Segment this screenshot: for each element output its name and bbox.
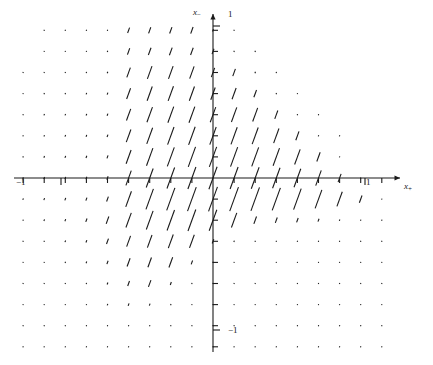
field-segment — [148, 48, 151, 55]
x-axis-label: x+ — [404, 182, 412, 193]
field-segment — [65, 198, 66, 200]
field-segment — [359, 195, 362, 202]
field-segment — [254, 217, 257, 224]
field-segment — [148, 258, 152, 268]
axes-layer — [14, 14, 400, 352]
field-segment — [128, 28, 130, 33]
field-segment — [126, 191, 132, 207]
field-segment — [337, 192, 342, 207]
field-segment — [107, 261, 108, 264]
field-segment — [232, 88, 236, 99]
field-segment — [107, 155, 108, 158]
field-segment — [273, 148, 279, 166]
field-segment — [128, 281, 130, 286]
field-segment — [127, 236, 131, 247]
field-segment — [126, 129, 131, 142]
field-segment — [147, 148, 153, 166]
field-segment — [253, 108, 258, 122]
field-segment — [191, 48, 194, 55]
field-segment — [147, 87, 152, 101]
field-segment — [233, 69, 236, 76]
field-segment — [254, 90, 257, 97]
field-segment — [44, 135, 45, 136]
field-segment — [65, 156, 66, 158]
field-segment — [234, 241, 235, 242]
y-axis-label-subscript: − — [197, 11, 201, 19]
field-segment — [127, 88, 131, 99]
field-segment — [86, 156, 87, 158]
field-segment — [86, 262, 87, 264]
field-segment — [128, 303, 129, 305]
field-segment — [107, 283, 108, 285]
field-segment — [149, 304, 150, 306]
field-segment — [86, 240, 87, 242]
field-segment — [107, 197, 109, 202]
field-segment — [167, 188, 175, 210]
field-segment — [147, 66, 152, 79]
field-segment — [272, 188, 280, 210]
field-segment — [168, 66, 173, 79]
field-segment — [251, 187, 260, 210]
field-segment — [107, 304, 108, 305]
field-segment — [107, 239, 109, 244]
field-segment — [339, 219, 340, 220]
field-segment — [188, 147, 195, 167]
field-segment — [188, 209, 196, 231]
field-segment — [255, 72, 256, 73]
field-segment — [126, 150, 131, 164]
field-segment — [296, 131, 299, 140]
field-segment — [230, 187, 239, 211]
field-segment — [189, 127, 196, 145]
vector-field-layer — [23, 27, 382, 347]
field-segment — [169, 48, 172, 56]
field-segment — [275, 111, 278, 119]
field-segment — [318, 219, 319, 222]
x-axis-label-subscript: + — [408, 185, 412, 193]
field-segment — [168, 107, 174, 123]
field-segment — [188, 187, 197, 211]
field-segment — [274, 128, 279, 143]
field-segment — [86, 93, 87, 94]
field-segment — [275, 218, 277, 223]
field-segment — [65, 114, 66, 115]
field-segment — [167, 210, 174, 231]
field-segment — [295, 149, 301, 164]
field-segment — [191, 27, 193, 34]
field-segment — [65, 219, 66, 221]
field-segment — [65, 240, 66, 242]
field-segment — [146, 211, 153, 230]
field-segment — [86, 198, 87, 201]
vector-field-figure: x+ x− −1 1 1 −1 — [0, 0, 433, 365]
field-segment — [126, 109, 130, 121]
field-segment — [252, 127, 258, 144]
field-segment — [65, 135, 66, 137]
x-axis-tick-label-positive-one: 1 — [366, 178, 371, 187]
field-segment — [86, 114, 87, 116]
field-segment — [148, 280, 150, 287]
field-segment — [168, 234, 173, 248]
field-segment — [167, 147, 174, 166]
field-segment — [126, 213, 131, 228]
field-segment — [44, 219, 45, 221]
field-segment — [189, 107, 195, 123]
field-segment — [107, 114, 108, 116]
field-segment — [147, 128, 153, 144]
field-segment — [252, 147, 259, 166]
field-segment — [297, 218, 299, 222]
field-segment — [147, 235, 152, 248]
field-segment — [190, 235, 195, 248]
field-segment — [146, 189, 153, 210]
field-segment — [231, 127, 237, 144]
y-axis-tick-label-positive-one: 1 — [228, 10, 233, 19]
y-axis-arrowhead — [210, 14, 215, 20]
field-segment — [107, 72, 108, 73]
field-segment — [107, 93, 108, 95]
field-segment — [107, 135, 108, 137]
field-segment — [23, 198, 24, 199]
field-segment — [106, 217, 109, 224]
field-segment — [317, 152, 320, 161]
field-segment — [191, 260, 192, 264]
field-segment — [127, 48, 129, 54]
field-segment — [231, 213, 236, 228]
field-segment — [231, 147, 238, 167]
